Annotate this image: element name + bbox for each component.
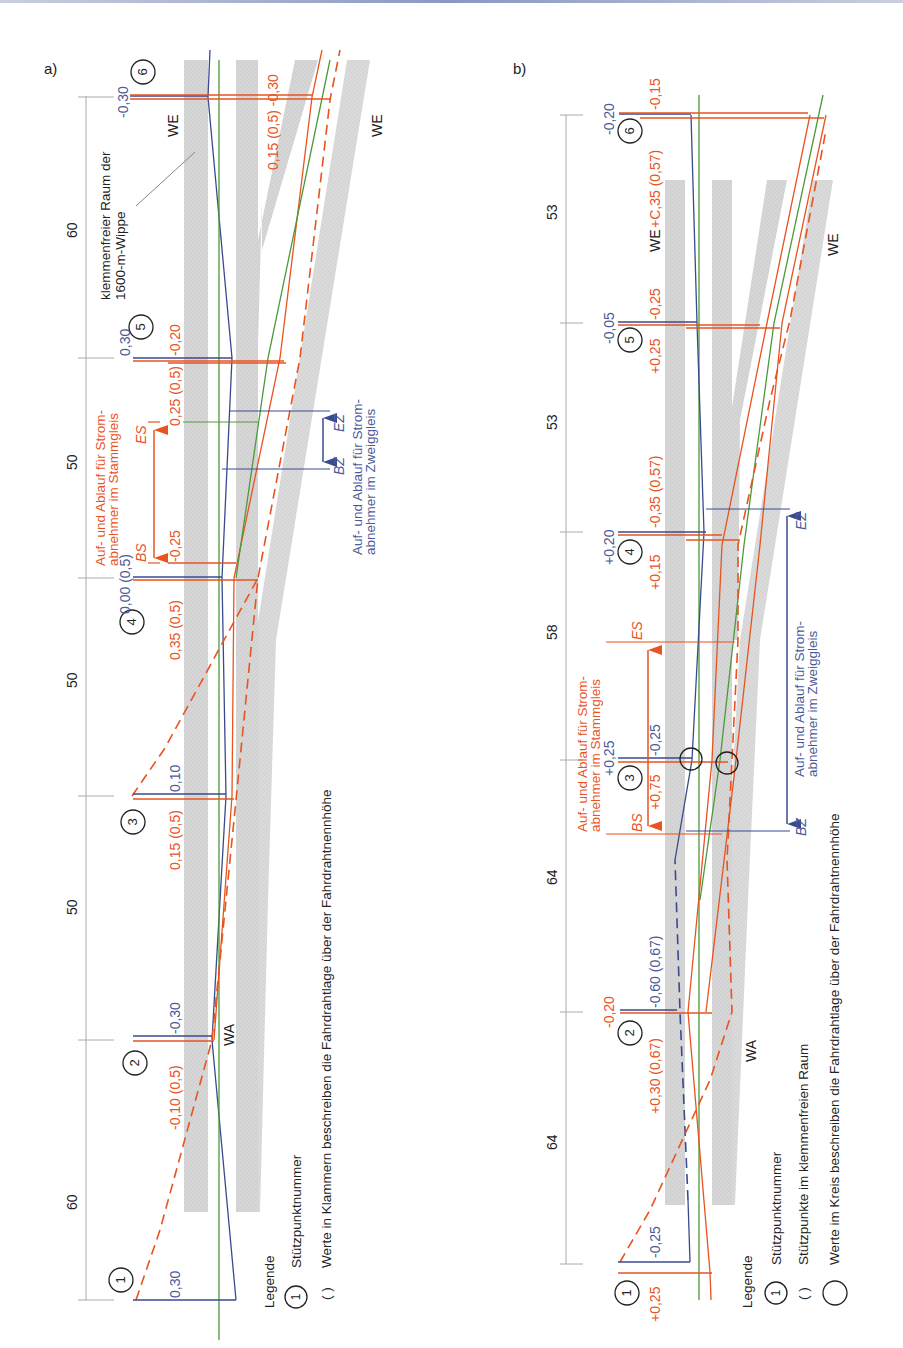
bs-label: BS [629, 813, 645, 832]
support-point-4: 4 [618, 540, 642, 564]
ez-label: EZ [793, 512, 809, 530]
panel-a: a) 60 50 50 50 60 [44, 50, 385, 1340]
panel-a-legend: Legende 1 Stützpunktnummer ( ) Werte in … [262, 789, 334, 1308]
panel-b-values: -0,25 +0,25 -0,60 (0,67) +0,30 (0,67) -0… [601, 78, 663, 1322]
panel-b: b) 64 64 58 53 53 [513, 60, 847, 1322]
span-label: 58 [544, 624, 560, 640]
we-value: +C,35 (0,57) [647, 150, 663, 228]
svg-text:( ): ( ) [796, 1287, 811, 1300]
svg-text:-0,60 (0,67): -0,60 (0,67) [647, 936, 663, 1008]
svg-text:+0,25: +0,25 [601, 740, 617, 776]
span-label: 53 [544, 204, 560, 220]
svg-text:-0,05: -0,05 [601, 312, 617, 344]
span-label: 64 [544, 1134, 560, 1150]
we-label: WE [825, 233, 841, 256]
span-label: 64 [544, 869, 560, 885]
svg-text:-0,25: -0,25 [647, 288, 663, 320]
svg-text:-0,25: -0,25 [647, 724, 663, 756]
svg-text:4: 4 [124, 618, 139, 625]
support-point-6: 6 [618, 119, 642, 143]
panel-a-label: a) [44, 60, 57, 77]
span-label: 53 [544, 414, 560, 430]
svg-text:1: 1 [113, 1276, 128, 1283]
clamp-free-label: 1600-m-Wippe [113, 211, 128, 300]
support-point-5: 5 [618, 328, 642, 352]
value-orange: 0,15 (0,5) [167, 810, 183, 870]
value-blue: 0,10 [167, 765, 183, 792]
svg-text:+0,25: +0,25 [647, 1286, 663, 1322]
span-label: 50 [64, 672, 80, 688]
svg-text:( ): ( ) [319, 1287, 334, 1300]
svg-text:+0,25: +0,25 [647, 338, 663, 374]
value-blue: 0,30 [167, 1271, 183, 1298]
turnout-catenary-diagram: a) 60 50 50 50 60 [0, 0, 903, 1348]
main-track-runway-label: abnehmer im Stammgleis [106, 413, 121, 566]
panel-b-span-labels: 64 64 58 53 53 [544, 204, 560, 1150]
svg-text:1: 1 [769, 1289, 783, 1296]
branch-track-runway-label: abnehmer im Zweiggleis [805, 630, 820, 777]
span-label: 60 [64, 1194, 80, 1210]
svg-text:5: 5 [622, 336, 637, 343]
bs-label: BS [133, 543, 149, 562]
we-label: WE [369, 114, 385, 137]
support-point-1: 1 [615, 1281, 639, 1305]
ez-label: EZ [331, 414, 347, 432]
panel-a-supports [130, 95, 330, 1300]
we-label: WE [165, 114, 181, 137]
svg-text:3: 3 [125, 818, 140, 825]
legend-item: Stützpunkte im klemmenfreien Raum [796, 1044, 811, 1265]
es-label: ES [133, 425, 149, 444]
svg-text:+0,15: +0,15 [647, 554, 663, 590]
panel-a-stammgleis-runway: ES BS [133, 422, 160, 563]
bz-label: BZ [793, 818, 809, 836]
value-orange: -0,10 (0,5) [167, 1065, 183, 1130]
support-point-2: 2 [618, 1021, 642, 1045]
wa-label: WA [221, 1023, 237, 1046]
svg-text:+0,30 (0,67): +0,30 (0,67) [647, 1038, 663, 1114]
legend-item: Stützpunktnummer [769, 1151, 784, 1265]
branch-track-runway-label: abnehmer im Zweiggleis [363, 408, 378, 555]
svg-text:-0,15: -0,15 [647, 78, 663, 110]
bz-label: BZ [331, 457, 347, 475]
svg-text:-0,20: -0,20 [601, 996, 617, 1028]
span-label: 50 [64, 899, 80, 915]
svg-text:1: 1 [289, 1293, 303, 1300]
value-blue: 0,30 [117, 329, 133, 356]
svg-text:-0,25: -0,25 [647, 1226, 663, 1258]
svg-text:6: 6 [622, 127, 637, 134]
panel-a-span-labels: 60 50 50 50 60 [64, 222, 80, 1210]
main-track-runway-label: abnehmer im Stammgleis [588, 679, 603, 832]
svg-text:1: 1 [619, 1289, 634, 1296]
svg-text:-0,20: -0,20 [601, 103, 617, 135]
support-point-6: 6 [131, 60, 155, 84]
legend-item: Werte im Kreis beschreiben die Fahrdraht… [827, 813, 842, 1265]
legend-title: Legende [262, 1255, 277, 1308]
svg-text:-0,35 (0,57): -0,35 (0,57) [647, 456, 663, 528]
legend-item: Stützpunktnummer [289, 1154, 304, 1268]
panel-b-support-numbers: 1 2 3 4 5 6 [615, 119, 642, 1305]
support-point-3: 3 [121, 810, 145, 834]
svg-text:4: 4 [622, 548, 637, 555]
value-blue: -0,30 [167, 1002, 183, 1034]
svg-text:6: 6 [135, 68, 150, 75]
legend-title: Legende [740, 1255, 755, 1308]
blue-contact-wire [208, 50, 236, 1300]
support-point-1: 1 [109, 1268, 133, 1292]
we-label: WE [647, 229, 663, 252]
svg-text:+0,20: +0,20 [601, 529, 617, 565]
value-orange: 0,35 (0,5) [167, 600, 183, 660]
span-label: 60 [64, 222, 80, 238]
clamp-free-label: klemmenfreier Raum der [98, 151, 113, 300]
span-label: 50 [64, 454, 80, 470]
panel-b-label: b) [513, 60, 526, 77]
wa-label: WA [743, 1039, 759, 1062]
value-orange: 0,15 (0,5) -0,30 [265, 74, 281, 170]
support-point-2: 2 [123, 1051, 147, 1075]
legend-item: Werte in Klammern beschreiben die Fahrdr… [319, 789, 334, 1268]
svg-text:3: 3 [622, 774, 637, 781]
svg-text:2: 2 [127, 1059, 142, 1066]
value-blue: -0,30 [115, 86, 131, 118]
value-orange: -0,25 [167, 530, 183, 562]
value-orange: -0,20 [167, 324, 183, 356]
es-label: ES [629, 621, 645, 640]
